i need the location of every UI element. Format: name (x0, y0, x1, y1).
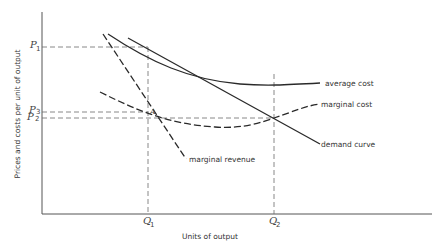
y-axis-title: Prices and costs per unit of output (13, 49, 22, 178)
q1-sub: 1 (150, 221, 154, 229)
p2-sub: 2 (35, 115, 39, 123)
x-axis-title: Units of output (182, 232, 238, 241)
average-cost-label: average cost (325, 79, 374, 88)
marginal-cost-curve (100, 92, 320, 127)
demand-curve-label: demand curve (321, 140, 376, 149)
economics-diagram: average cost marginal cost demand curve … (0, 0, 440, 248)
demand-curve (128, 38, 320, 144)
guide-lines (42, 47, 274, 214)
marginal-revenue-label: marginal revenue (189, 155, 256, 164)
p2-label: P (26, 111, 34, 122)
p1-sub: 1 (36, 45, 40, 53)
marginal-revenue-curve (103, 34, 186, 159)
q2-sub: 2 (276, 221, 280, 229)
point-a-label: A (149, 107, 156, 116)
average-cost-curve (108, 34, 320, 85)
marginal-cost-label: marginal cost (321, 100, 372, 109)
